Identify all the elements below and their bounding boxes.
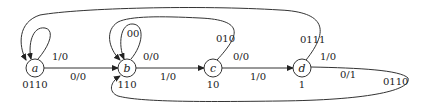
code-d-to-b: 0110 (383, 76, 408, 87)
node-b: b 110 (117, 59, 136, 90)
label-d-to-a: 1/0 (320, 51, 336, 62)
state-diagram: a 0110 b 110 c 10 d 1 1/0 0/0 00 0/0 1/0… (0, 0, 427, 105)
node-b-code: 110 (117, 79, 136, 90)
node-a-code: 0110 (22, 79, 47, 90)
node-a: a 0110 (22, 59, 47, 90)
edge-a-self-loop (30, 28, 50, 59)
label-c-to-b: 0/0 (233, 51, 249, 62)
node-b-label: b (123, 62, 130, 75)
code-b-self: 00 (127, 28, 140, 39)
label-b-self: 0/0 (143, 51, 159, 62)
node-d-label: d (298, 62, 305, 75)
code-c-to-b: 010 (216, 33, 235, 44)
label-d-to-b: 0/1 (340, 69, 356, 80)
node-d-code: 1 (299, 79, 305, 90)
node-d: d 1 (293, 59, 311, 90)
node-c: c 10 (204, 59, 222, 90)
code-d-to-a: 0111 (300, 34, 325, 45)
label-a-to-b: 0/0 (70, 71, 86, 82)
label-c-to-d: 1/0 (250, 71, 266, 82)
label-b-to-c: 1/0 (160, 71, 176, 82)
label-a-self: 1/0 (52, 51, 68, 62)
node-c-label: c (210, 62, 216, 75)
node-c-code: 10 (207, 79, 220, 90)
node-a-label: a (32, 62, 39, 75)
